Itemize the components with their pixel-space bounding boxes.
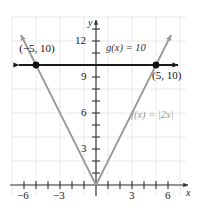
g-function-label: g(x) = 10 <box>106 43 146 54</box>
point-label-left: (−5, 10) <box>19 43 55 54</box>
y-axis-label: y <box>88 18 92 28</box>
f-function-label: f(x) = |2x| <box>131 110 174 121</box>
x-tick-label-3: 3 <box>129 190 135 201</box>
x-tick-label-neg6: −6 <box>17 190 29 201</box>
x-tick-label-6: 6 <box>165 190 171 201</box>
y-tick-label-12: 12 <box>75 35 86 46</box>
y-tick-label-6: 6 <box>81 107 87 118</box>
intersection-point-right <box>153 62 160 69</box>
y-tick-label-3: 3 <box>81 143 87 154</box>
intersection-point-left <box>33 62 40 69</box>
x-tick-label-neg3: −3 <box>53 190 65 201</box>
coordinate-plane-svg <box>0 0 198 210</box>
x-axis-label: x <box>186 188 190 198</box>
point-label-right: (5, 10) <box>152 70 181 81</box>
y-tick-label-9: 9 <box>81 71 87 82</box>
graph-figure: y x 12 9 6 3 −6 −3 3 6 (−5, 10) (5, 10) … <box>0 0 198 210</box>
